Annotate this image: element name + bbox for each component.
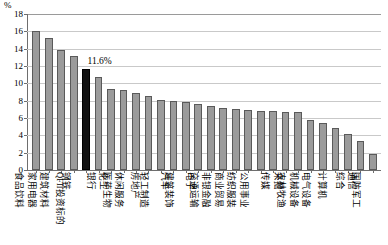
x-axis-label-text: 轻工制造 [138, 172, 147, 208]
bar-slot [117, 14, 129, 170]
x-axis-label: 综合 [330, 172, 339, 190]
bar-slot [192, 14, 204, 170]
bar [57, 50, 65, 170]
x-axis-label: 食品饮料 [9, 172, 18, 208]
bar [344, 134, 352, 170]
bar [32, 31, 40, 170]
bar-slot [205, 14, 217, 170]
x-axis-label-text: 建筑装饰 [163, 172, 172, 208]
x-axis-label: 交通运输 [184, 172, 193, 208]
bar-slot [55, 14, 67, 170]
bar-slot [30, 14, 42, 170]
bar [157, 100, 165, 170]
bar [95, 77, 103, 170]
x-axis-label-text: 公用事业 [238, 172, 247, 208]
y-tick-label-6: 6 [19, 114, 24, 123]
bar [269, 111, 277, 170]
bar [319, 123, 327, 170]
bar-slot [292, 14, 304, 170]
bar-slot [354, 14, 366, 170]
x-axis-label: 轻工制造 [134, 172, 143, 208]
bar [282, 112, 290, 170]
plot-area: 181614121086420 11.6% [27, 14, 381, 170]
bar [145, 96, 153, 170]
bar [132, 93, 140, 170]
bar-slot [130, 14, 142, 170]
y-tick-label-16: 16 [14, 27, 23, 36]
y-tick-label-8: 8 [19, 96, 24, 105]
bar [182, 102, 190, 170]
bar [107, 89, 115, 170]
y-tick-label-12: 12 [14, 62, 23, 71]
bar-slot [167, 14, 179, 170]
bar-slot: 11.6% [80, 14, 92, 170]
x-axis-label-text: QFII投资标的 [55, 172, 64, 225]
x-label-slot: 钢铁 [67, 171, 79, 245]
bar-highlighted [82, 69, 90, 170]
y-tick-label-18: 18 [14, 10, 23, 19]
bar [120, 90, 128, 170]
x-axis-label: 建筑材料 [34, 172, 43, 208]
x-axis-label: 机械设备 [284, 172, 293, 208]
x-axis-label: 电气设备 [296, 172, 305, 208]
bar [194, 104, 202, 170]
bar-slot [254, 14, 266, 170]
bar [369, 154, 377, 170]
x-axis-label: 传媒 [255, 172, 264, 190]
bar-slot [67, 14, 79, 170]
bar-slot [155, 14, 167, 170]
x-axis-label: 休闲服务 [109, 172, 118, 208]
x-axis-label-text: 计算机 [317, 172, 326, 199]
bar-chart: % 181614121086420 11.6% 食品饮料家用电器建筑材料钢铁QF… [0, 0, 388, 245]
bar-slot [180, 14, 192, 170]
x-axis-label-text: 国防军工 [350, 172, 359, 208]
bar-slot [230, 14, 242, 170]
bar-slot [142, 14, 154, 170]
x-axis-category-labels: 食品饮料家用电器建筑材料钢铁QFII投资标的银行化工医药生物休闲服务房地产轻工制… [27, 171, 381, 245]
x-axis-label: 公用事业 [234, 172, 243, 208]
bar [332, 128, 340, 170]
bar [294, 112, 302, 170]
y-tick-label-2: 2 [19, 148, 24, 157]
x-axis-label: 非银金融 [196, 172, 205, 208]
bar-slot [42, 14, 54, 170]
y-axis-unit-label: % [4, 1, 12, 10]
x-axis-label-text: 电气设备 [301, 172, 310, 208]
bar-slot [304, 14, 316, 170]
x-axis-label-text: 休闲服务 [113, 172, 122, 208]
x-axis-label: 建筑装饰 [159, 172, 168, 208]
bar [170, 101, 178, 170]
x-axis-label: 纺织服装 [221, 172, 230, 208]
bar-slot [92, 14, 104, 170]
bar-slot [105, 14, 117, 170]
bar-slot [217, 14, 229, 170]
bar-slot [242, 14, 254, 170]
x-axis-label-text: 建筑材料 [39, 172, 48, 208]
bar [207, 106, 215, 170]
x-axis-label: 计算机 [313, 172, 322, 199]
y-tick-label-4: 4 [19, 131, 24, 140]
bar-slot [367, 14, 379, 170]
y-tick-label-14: 14 [14, 44, 23, 53]
bar [219, 108, 227, 170]
bar [357, 141, 365, 170]
bar [232, 109, 240, 170]
x-label-slot: 国防军工 [367, 171, 379, 245]
x-axis-label: 银行 [81, 172, 90, 190]
bar [257, 111, 265, 170]
bar-slot [279, 14, 291, 170]
bar-slot [342, 14, 354, 170]
bar [244, 110, 252, 170]
x-axis-label: 医药生物 [97, 172, 106, 208]
bar-slot [317, 14, 329, 170]
bar-slot [329, 14, 341, 170]
bar-series: 11.6% [27, 14, 381, 170]
x-axis-label: QFII投资标的 [51, 172, 60, 225]
x-axis-label: 商业贸易 [209, 172, 218, 208]
bar [70, 56, 78, 170]
x-axis-label: 家用电器 [22, 172, 31, 208]
y-tick-label-10: 10 [14, 79, 23, 88]
bar-slot [267, 14, 279, 170]
bar [307, 120, 315, 170]
x-axis-label: 国防军工 [346, 172, 355, 208]
